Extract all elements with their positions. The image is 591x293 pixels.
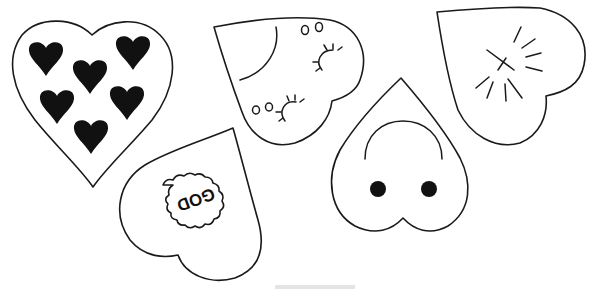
heart-cutouts-canvas: GOD bbox=[0, 0, 591, 293]
heart-god: GOD bbox=[120, 128, 262, 280]
heart-face bbox=[332, 78, 468, 231]
faint-caption bbox=[275, 285, 355, 289]
heart-sparkle bbox=[437, 7, 585, 144]
heart-ladybug-eyes bbox=[214, 18, 363, 145]
right-dot bbox=[421, 181, 437, 197]
left-dot bbox=[370, 181, 386, 197]
